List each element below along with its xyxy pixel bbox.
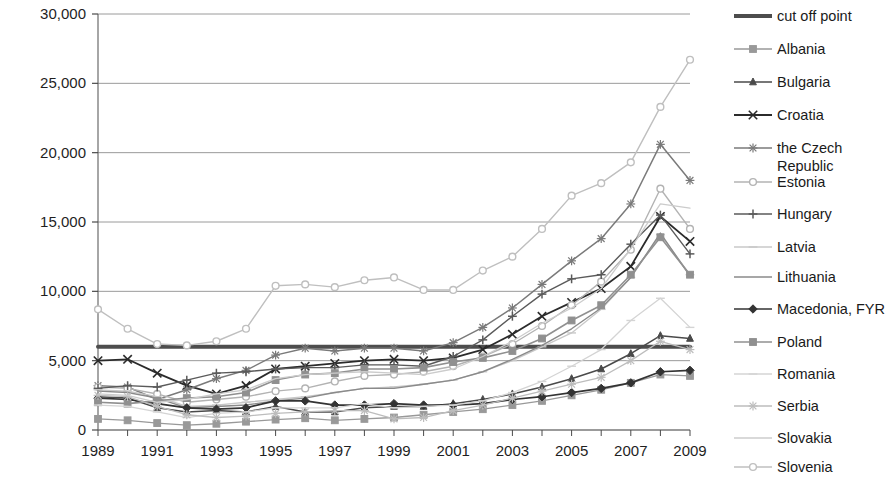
legend-item[interactable]: Slovakia xyxy=(733,430,832,446)
legend-key-swatch xyxy=(733,140,773,156)
legend-item[interactable]: Macedonia, FYR xyxy=(733,301,885,317)
legend-label: Bulgaria xyxy=(777,74,830,90)
marker-circle xyxy=(272,388,279,395)
chart-legend: cut off pointAlbaniaBulgariaCroatiathe C… xyxy=(733,0,894,477)
x-tick-label: 2007 xyxy=(614,442,647,459)
marker-square xyxy=(509,348,516,355)
legend-label: Poland xyxy=(777,334,822,350)
legend-item[interactable]: Romania xyxy=(733,366,835,382)
x-axis: 1989199119931995199719992001200320052007… xyxy=(81,430,706,459)
legend-item[interactable]: Lithuania xyxy=(733,269,836,285)
marker-square xyxy=(657,234,664,241)
legend-key-swatch xyxy=(733,74,773,90)
marker-circle xyxy=(479,267,486,274)
marker-circle xyxy=(657,185,664,192)
marker-circle xyxy=(657,104,664,111)
y-tick-label: 0 xyxy=(78,421,86,438)
marker-diamond xyxy=(749,305,757,313)
legend-item[interactable]: Slovenia xyxy=(733,459,833,475)
legend-label: Romania xyxy=(777,366,835,382)
legend-label: Lithuania xyxy=(777,269,836,285)
legend-label: Serbia xyxy=(777,398,819,414)
chart-container: 05,00010,00015,00020,00025,00030,0001989… xyxy=(0,0,894,477)
marker-circle xyxy=(124,325,131,332)
legend-label: Macedonia, FYR xyxy=(777,301,885,317)
legend-label: Republic xyxy=(777,158,833,174)
marker-square xyxy=(154,420,161,427)
marker-circle xyxy=(331,284,338,291)
y-tick-label: 30,000 xyxy=(40,5,86,22)
legend-key-swatch xyxy=(733,366,773,382)
legend-item[interactable]: Albania xyxy=(733,41,825,57)
marker-circle xyxy=(420,287,427,294)
marker-diamond xyxy=(271,397,279,405)
marker-square xyxy=(420,364,427,371)
marker-circle xyxy=(391,274,398,281)
marker-circle xyxy=(750,464,757,471)
marker-circle xyxy=(272,282,279,289)
legend-item[interactable]: Estonia xyxy=(733,174,825,190)
legend-item[interactable]: Latvia xyxy=(733,239,816,255)
marker-square xyxy=(450,359,457,366)
legend-label: Latvia xyxy=(777,239,816,255)
marker-square xyxy=(95,416,102,423)
marker-circle xyxy=(154,341,161,348)
legend-label: cut off point xyxy=(777,8,852,24)
marker-square xyxy=(331,417,338,424)
legend-item[interactable]: Croatia xyxy=(733,107,824,123)
legend-item[interactable]: Poland xyxy=(733,334,822,350)
marker-circle xyxy=(750,179,757,186)
legend-item[interactable]: cut off point xyxy=(733,8,852,24)
y-tick-label: 10,000 xyxy=(40,282,86,299)
marker-square xyxy=(627,271,634,278)
legend-key-swatch xyxy=(733,174,773,190)
marker-circle xyxy=(213,338,220,345)
x-tick-label: 1991 xyxy=(141,442,174,459)
marker-circle xyxy=(687,56,694,63)
y-tick-label: 15,000 xyxy=(40,213,86,230)
marker-circle xyxy=(243,325,250,332)
legend-label: Slovakia xyxy=(777,430,832,446)
legend-label: the Czech xyxy=(777,140,842,156)
marker-circle xyxy=(539,226,546,233)
marker-circle xyxy=(627,159,634,166)
marker-square xyxy=(183,395,190,402)
marker-square xyxy=(361,416,368,423)
legend-key-swatch xyxy=(733,430,773,446)
marker-square xyxy=(183,422,190,429)
marker-square xyxy=(124,417,131,424)
x-tick-label: 1997 xyxy=(318,442,351,459)
y-tick-label: 25,000 xyxy=(40,74,86,91)
marker-square xyxy=(539,335,546,342)
legend-key-swatch xyxy=(733,158,773,174)
legend-item[interactable]: Hungary xyxy=(733,206,832,222)
marker-circle xyxy=(331,378,338,385)
marker-circle xyxy=(183,342,190,349)
x-tick-label: 2001 xyxy=(437,442,470,459)
legend-item[interactable]: the Czech xyxy=(733,140,842,156)
marker-circle xyxy=(509,253,516,260)
x-tick-label: 2009 xyxy=(673,442,706,459)
marker-circle xyxy=(687,226,694,233)
marker-circle xyxy=(95,306,102,313)
legend-key-swatch xyxy=(733,8,773,24)
y-axis: 05,00010,00015,00020,00025,00030,000 xyxy=(40,5,98,438)
line-chart: 05,00010,00015,00020,00025,00030,0001989… xyxy=(0,0,733,477)
legend-label: Estonia xyxy=(777,174,825,190)
x-tick-label: 2005 xyxy=(555,442,588,459)
marker-circle xyxy=(568,192,575,199)
legend-item[interactable]: Republic xyxy=(733,158,833,174)
legend-item[interactable]: Bulgaria xyxy=(733,74,830,90)
marker-square xyxy=(598,302,605,309)
legend-key-swatch xyxy=(733,239,773,255)
legend-key-swatch xyxy=(733,41,773,57)
legend-key-swatch xyxy=(733,301,773,317)
x-tick-label: 1993 xyxy=(200,442,233,459)
marker-circle xyxy=(598,180,605,187)
x-tick-label: 1999 xyxy=(377,442,410,459)
legend-label: Hungary xyxy=(777,206,832,222)
marker-circle xyxy=(598,278,605,285)
y-tick-label: 20,000 xyxy=(40,144,86,161)
legend-item[interactable]: Serbia xyxy=(733,398,819,414)
marker-square xyxy=(568,317,575,324)
